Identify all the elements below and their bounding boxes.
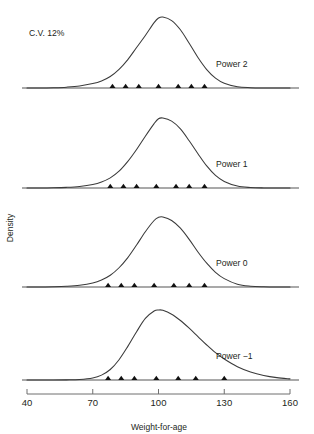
panel-label: Power 0 [216,258,248,268]
x-axis-tick-label: 130 [216,397,232,408]
panel-label: Power −1 [216,351,253,361]
density-panels-figure: Power 2Power 1Power 0Power −1 4070100130… [0,0,314,434]
chart-background [0,0,314,434]
cv-annotation: C.V. 12% [29,28,65,38]
x-axis-tick-label: 100 [151,397,167,408]
x-axis-tick-label: 70 [87,397,98,408]
x-axis-tick-label: 160 [282,397,298,408]
x-axis-title: Weight-for-age [131,422,187,432]
panel-label: Power 2 [216,59,248,69]
x-axis-tick-label: 40 [22,397,33,408]
panel-label: Power 1 [216,159,248,169]
y-axis-label: Density [5,213,15,242]
chart-canvas: Power 2Power 1Power 0Power −1 4070100130… [0,0,314,434]
